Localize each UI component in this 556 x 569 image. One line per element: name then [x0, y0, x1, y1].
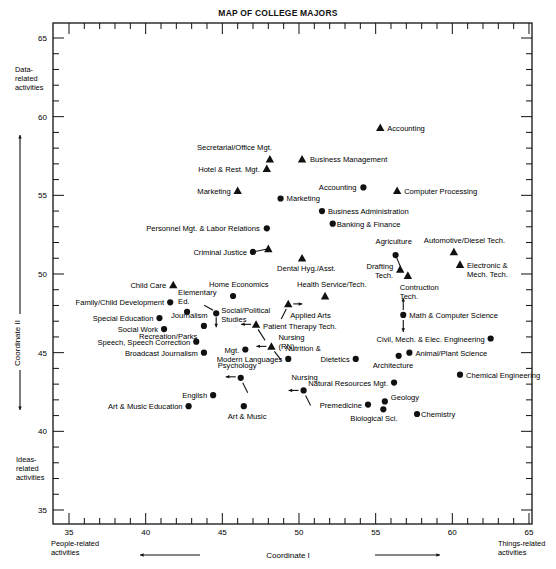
- circle-marker-recreation-parks-mgt: [242, 346, 248, 352]
- point-label-psychology: Psychology: [218, 361, 257, 370]
- point-label-business-management: Business Management: [310, 155, 388, 164]
- circle-marker-geology: [382, 398, 388, 404]
- triangle-marker-marketing: [233, 186, 241, 194]
- circle-marker-special-education: [156, 315, 162, 321]
- y-tick-label: 35: [38, 506, 47, 515]
- applied-arts-arrow-head: [299, 302, 303, 305]
- point-label-accounting: Accounting: [319, 183, 357, 192]
- circle-marker-social-political-studies: [213, 310, 219, 316]
- point-label-criminal-justice: Criminal Justice: [193, 248, 247, 257]
- triangle-marker-applied-arts: [284, 300, 292, 308]
- triangle-marker-hotel-rest-mgt: [263, 164, 271, 172]
- point-label-computer-processing: Computer Processing: [404, 187, 477, 196]
- circle-marker-home-economics: [230, 293, 236, 299]
- triangle-marker-electronic-mech-tech: [456, 260, 464, 268]
- x-tick-label: 65: [525, 528, 534, 537]
- triangle-marker-child-care: [169, 281, 177, 289]
- triangle-marker-computer-processing: [393, 186, 401, 194]
- point-label-architecture: Architecture: [373, 361, 414, 370]
- x-tick-label: 45: [218, 528, 227, 537]
- circle-marker-civil-mech-elec-engineering: [488, 335, 494, 341]
- point-label-elementary-ed: ElementaryEd.: [178, 288, 217, 306]
- circle-marker-animal-plant-science: [406, 350, 412, 356]
- x-tick-label: 60: [448, 528, 457, 537]
- y-axis-up-arrow-head: [18, 135, 21, 139]
- y-bottom-annotation: Ideas-relatedactivities: [16, 455, 45, 482]
- nursing-arrow-head: [289, 389, 293, 392]
- point-label-applied-arts: Applied Arts: [290, 311, 331, 320]
- point-label-child-care: Child Care: [130, 281, 166, 290]
- point-label-hotel-rest-mgt: Hotel & Rest. Mgt.: [198, 165, 260, 174]
- circle-marker-personnel-mgt-labor-relations: [264, 225, 270, 231]
- circle-marker-art-music: [241, 403, 247, 409]
- point-label-special-education: Special Education: [93, 314, 154, 323]
- y-tick-label: 60: [38, 113, 47, 122]
- point-label-nursing: Nursing: [292, 373, 318, 382]
- point-label-health-service-tech: Health Service/Tech.: [297, 280, 367, 289]
- point-label-nutrition-dietetics: Nutrition &Dietetics: [285, 344, 350, 364]
- point-label-drafting-tech: DraftingTech.: [367, 262, 394, 280]
- circle-marker-family-child-development: [167, 299, 173, 305]
- x-right-annotation: Things-relatedactivities: [498, 539, 545, 557]
- point-label-family-child-development: Family/Child Development: [76, 298, 166, 307]
- circle-marker-architecture: [396, 353, 402, 359]
- x-tick-label: 50: [295, 528, 304, 537]
- point-label-chemical-engineering: Chemical Engineering: [466, 371, 540, 380]
- triangle-marker-automotive-diesel-tech: [450, 248, 458, 256]
- nursing-rn-arrow-head: [256, 345, 260, 348]
- circle-marker-nutrition-dietetics: [353, 356, 359, 362]
- circle-marker-agriculture: [392, 252, 398, 258]
- point-label-home-economics: Home Economics: [209, 280, 269, 289]
- point-label-business-administration: Business Administration: [328, 207, 409, 216]
- triangle-marker-drafting-tech: [396, 265, 404, 273]
- psychology-leader: [243, 383, 248, 393]
- y-tick-label: 65: [38, 34, 47, 43]
- point-label-accounting: Accounting: [387, 124, 425, 133]
- point-label-biological-sci: Biological Sci.: [350, 414, 397, 423]
- y-axis-title: Coordinate II: [13, 320, 22, 366]
- x-axis-left-arrow-head: [140, 553, 144, 556]
- y-tick-label: 45: [38, 349, 47, 358]
- x-left-annotation: People-relatedactivities: [51, 539, 99, 557]
- circle-marker-criminal-justice: [250, 249, 256, 255]
- circle-marker-psychology: [238, 375, 244, 381]
- point-label-civil-mech-elec-engineering: Civil, Mech. & Elec. Engineering: [377, 335, 485, 344]
- point-label-natural-resources-mgt: Natural Resources Mgt.: [308, 379, 388, 388]
- circle-marker-nursing: [300, 387, 306, 393]
- triangle-marker-contruction-tech: [404, 271, 412, 279]
- circle-marker-art-music-education: [185, 403, 191, 409]
- point-label-chemistry: Chemistry: [421, 410, 455, 419]
- point-label-animal-plant-science: Animal/Plant Science: [415, 349, 487, 358]
- point-label-geology: Geology: [391, 393, 419, 402]
- point-label-secretarial-office-mgt: Secretarial/Office Mgt.: [197, 143, 272, 152]
- circle-marker-business-administration: [319, 208, 325, 214]
- x-tick-label: 55: [371, 528, 380, 537]
- point-label-art-music: Art & Music: [228, 412, 267, 421]
- social-studies-leader: [204, 305, 213, 310]
- circle-marker-broadcast-journalism: [201, 350, 207, 356]
- point-label-math-computer-science: Math & Computer Science: [409, 311, 498, 320]
- y-tick-label: 55: [38, 191, 47, 200]
- circle-marker-chemistry: [414, 411, 420, 417]
- point-label-dental-hyg-asst: Dental Hyg./Asst.: [277, 264, 336, 273]
- point-label-marketing: Marketing: [197, 187, 230, 196]
- point-label-automotive-diesel-tech: Automotive/Diesel Tech.: [424, 236, 505, 245]
- point-label-art-music-education: Art & Music Education: [108, 402, 183, 411]
- triangle-marker-patient-therapy-tech: [252, 320, 260, 328]
- point-label-english: English: [182, 391, 207, 400]
- triangle-marker-secretarial-office-mgt: [266, 155, 274, 163]
- x-tick-label: 35: [65, 528, 74, 537]
- x-tick-label: 40: [141, 528, 150, 537]
- x-axis-title: Coordinate I: [266, 551, 310, 560]
- point-label-personnel-mgt-labor-relations: Personnel Mgt. & Labor Relations: [146, 224, 260, 233]
- math-down-arrow-head: [402, 328, 405, 332]
- triangle-marker-business-management: [298, 155, 306, 163]
- circle-marker-marketing: [277, 195, 283, 201]
- axis-ticks: 3540455055606535404550556065: [38, 23, 534, 537]
- circle-marker-accounting: [360, 184, 366, 190]
- y-tick-label: 40: [38, 427, 47, 436]
- point-label-premedicine: Premedicine: [320, 401, 362, 410]
- nursing-leader: [306, 395, 311, 405]
- circle-marker-banking-finance: [330, 221, 336, 227]
- triangle-marker-criminal-justice: [264, 245, 272, 253]
